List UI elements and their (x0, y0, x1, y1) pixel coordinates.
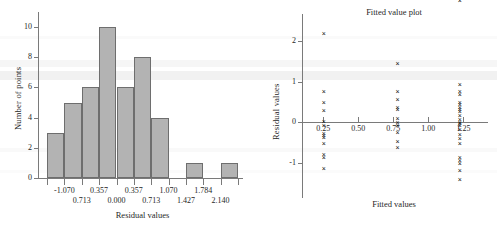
histogram-bar (47, 133, 64, 178)
scatter-x-tick (463, 117, 464, 122)
scatter-point: × (322, 107, 326, 114)
histogram-x-tick (64, 179, 65, 185)
histogram-y-tick-label: 6 (14, 83, 32, 91)
histogram-x-tick-label: 0.713 (66, 197, 98, 205)
histogram-x-axis-line (38, 178, 243, 179)
scatter-x-tick (358, 117, 359, 122)
histogram-x-tick (186, 179, 187, 185)
histogram-x-tick-label: 1.427 (170, 197, 202, 205)
histogram-x-tick (169, 179, 170, 185)
figure-canvas: Number of points Residual values 0246810… (0, 0, 497, 225)
scatter-point: × (322, 131, 326, 138)
histogram-x-tick-label: 0.357 (118, 187, 150, 195)
scatter-y-tick-label: -1 (280, 159, 296, 167)
histogram-y-tick-label: 8 (14, 53, 32, 61)
histogram-bar (117, 87, 134, 178)
scatter-title: Fitted value plot (354, 8, 434, 17)
scatter-y-axis-line (302, 14, 303, 198)
histogram-x-axis-title: Residual values (107, 211, 179, 220)
scatter-x-tick-label: 0.50 (342, 125, 374, 133)
scatter-point: × (458, 0, 462, 4)
histogram-x-tick (151, 179, 152, 185)
histogram-x-tick (203, 179, 204, 185)
scatter-point: × (458, 176, 462, 183)
scatter-point: × (322, 88, 326, 95)
scatter-point: × (395, 128, 399, 135)
scatter-point: × (395, 59, 399, 66)
residual-histogram: Number of points Residual values 0246810… (0, 0, 250, 225)
histogram-x-tick (238, 179, 239, 185)
scatter-point: × (322, 164, 326, 171)
histogram-x-tick-label: 0.000 (101, 197, 133, 205)
scatter-point: × (322, 153, 326, 160)
histogram-bar (64, 103, 81, 179)
histogram-x-tick (221, 179, 222, 185)
scatter-point: × (395, 87, 399, 94)
scatter-y-tick-label: 0 (280, 118, 296, 126)
scatter-point: × (322, 99, 326, 106)
histogram-bar (221, 163, 238, 178)
histogram-y-tick-label: 4 (14, 114, 32, 122)
scatter-x-tick-label: 0.75 (377, 125, 409, 133)
histogram-x-tick-label: 2.140 (205, 197, 237, 205)
histogram-x-tick (82, 179, 83, 185)
scatter-point: × (322, 30, 326, 37)
scatter-x-tick-label: 1.25 (447, 125, 479, 133)
histogram-bar (134, 57, 151, 178)
histogram-x-tick (47, 179, 48, 185)
histogram-x-tick-label: 0.357 (83, 187, 115, 195)
histogram-y-tick-label: 2 (14, 144, 32, 152)
scatter-y-tick (298, 41, 303, 42)
histogram-x-tick (99, 179, 100, 185)
histogram-x-tick (117, 179, 118, 185)
scatter-y-tick (298, 82, 303, 83)
scatter-point: × (458, 139, 462, 146)
scatter-point: × (322, 118, 326, 125)
scatter-x-tick-label: 1.00 (412, 125, 444, 133)
scatter-y-tick (298, 122, 303, 123)
histogram-x-tick-label: 1.784 (187, 187, 219, 195)
scatter-y-tick-label: 2 (280, 37, 296, 45)
scatter-point: × (395, 96, 399, 103)
scatter-point: × (458, 91, 462, 98)
histogram-bar (186, 163, 203, 178)
histogram-y-tick-label: 10 (14, 23, 32, 31)
scatter-x-tick (393, 117, 394, 122)
histogram-bar (99, 27, 116, 178)
histogram-x-tick-label: -1.070 (48, 187, 80, 195)
scatter-point: × (395, 143, 399, 150)
scatter-y-axis-title: Residual values (272, 83, 281, 140)
fitted-value-plot: Fitted value plot Residual values Fitted… (250, 0, 497, 225)
scatter-x-axis-title: Fitted values (358, 200, 430, 209)
scatter-point: × (322, 139, 326, 146)
histogram-y-tick-label: 0 (14, 174, 32, 182)
histogram-y-axis-line (38, 12, 39, 178)
scatter-x-tick (428, 117, 429, 122)
scatter-y-tick (298, 163, 303, 164)
scatter-point: × (458, 160, 462, 167)
histogram-bar (151, 118, 168, 178)
scatter-point: × (395, 105, 399, 112)
histogram-x-tick-label: 0.713 (135, 197, 167, 205)
histogram-x-tick (134, 179, 135, 185)
scatter-y-tick-label: 1 (280, 78, 296, 86)
histogram-x-tick-label: 1.070 (153, 187, 185, 195)
scatter-point: × (458, 167, 462, 174)
histogram-bar (82, 87, 99, 178)
